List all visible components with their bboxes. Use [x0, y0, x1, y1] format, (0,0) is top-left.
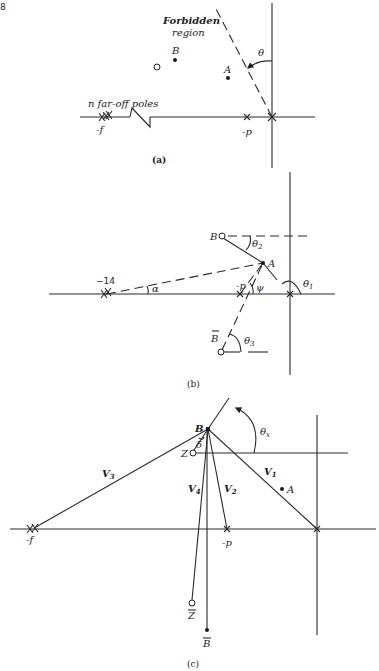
- point-a-b-label: A: [267, 258, 275, 269]
- pole-f-cluster-icon: [99, 111, 112, 121]
- v2-label: V2: [224, 483, 237, 496]
- forbidden-region-label-2: region: [172, 27, 205, 38]
- forbidden-boundary-line: [215, 7, 272, 117]
- pole-f-c-label: -f: [26, 534, 35, 545]
- pole-14-label: −14: [96, 276, 115, 286]
- point-zbar-label: Z: [187, 610, 196, 621]
- figure-a: θ A B Forbidden region n far-off poles -…: [80, 3, 315, 168]
- point-b-label: B: [171, 45, 179, 56]
- alpha-label: α: [152, 283, 159, 294]
- departure-direction-line: [208, 398, 229, 429]
- vector-v3: [36, 429, 208, 527]
- v4-label: V4: [188, 483, 201, 496]
- pole-p-b-label: -p: [236, 280, 246, 291]
- point-a-c-label: A: [286, 484, 294, 495]
- v3-label: V3: [102, 468, 115, 481]
- delta-label: δ: [196, 439, 202, 450]
- pole-f-label: -f: [96, 124, 105, 135]
- far-off-poles-label: n far-off poles: [88, 98, 158, 109]
- forbidden-region-label-1: Forbidden: [162, 15, 220, 26]
- theta-x-arc: [236, 408, 256, 453]
- pole-p-c-label: -p: [222, 537, 232, 548]
- figure-c: θx δ B Z A Z B V3 V4 V2 V1 -f -p: [10, 398, 376, 669]
- point-b-c-label: B: [194, 423, 203, 434]
- caption-a: (a): [152, 155, 166, 165]
- theta1-label: θ1: [303, 278, 314, 291]
- point-bbar-b-label: B: [210, 333, 218, 344]
- zero-b-circle: [219, 233, 225, 239]
- theta-x-label: θx: [260, 426, 270, 439]
- caption-b: (b): [187, 379, 200, 389]
- point-b-dot: [173, 58, 177, 62]
- v1-label: V1: [264, 466, 277, 479]
- point-bbar-c-dot: [205, 628, 209, 632]
- theta3-label: θ3: [244, 335, 255, 348]
- point-b-b-label: B: [209, 231, 217, 242]
- pole-p-label: -p: [242, 126, 252, 137]
- axis-break-zigzag: [130, 108, 315, 127]
- point-bbar-c-label: B: [202, 638, 210, 649]
- point-a-label: A: [223, 64, 231, 75]
- zero-open-circle: [154, 64, 160, 70]
- alpha-arc: [147, 286, 148, 294]
- bbar-to-a-line: [222, 263, 263, 350]
- point-a-b-dot: [261, 261, 265, 265]
- point-a-c-dot: [280, 487, 284, 491]
- point-b-c-dot: [206, 427, 210, 431]
- psi-label: ψ: [256, 282, 264, 293]
- root-locus-figure: 8 θ A B Forbidden region n far-off: [0, 0, 379, 671]
- theta2-label: θ2: [252, 238, 263, 251]
- theta3-arc: [229, 334, 241, 352]
- figure-b: A B B θ2 θ1 θ3 ψ α −14 -p (b): [49, 172, 335, 389]
- zero-bbar-circle: [218, 349, 224, 355]
- theta-arc: [248, 61, 272, 68]
- theta2-arc: [246, 236, 251, 250]
- theta-label: θ: [258, 47, 264, 58]
- page-number: 8: [0, 2, 6, 12]
- caption-c: (c): [187, 659, 199, 669]
- zero-z-circle: [190, 450, 196, 456]
- point-a-dot: [226, 76, 230, 80]
- zero-zbar-circle: [189, 600, 195, 606]
- point-z-label: Z: [180, 448, 189, 459]
